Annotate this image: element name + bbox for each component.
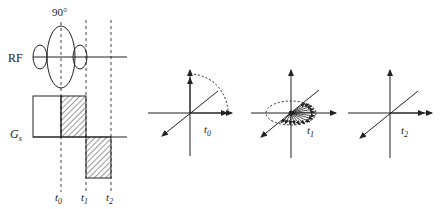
t1-label: t1 [81,191,88,206]
x-axis [360,91,418,138]
t2-label: t2 [106,191,113,206]
vector-t2-label: t2 [401,124,408,139]
origin-dot [289,111,293,115]
vector-diagram-t1 [251,70,336,158]
slice-select-lobe-hatched [61,96,86,137]
rotation-arc [190,74,228,113]
refocusing-lobe-hatched [86,137,111,178]
dephased-spin-vectors [281,103,315,125]
vector-t0-label: t0 [204,123,211,138]
rf-row [33,26,127,88]
slice-select-lobe-unhatched [33,96,61,137]
vector-t1-label: t1 [307,124,314,139]
vector-diagram-t2 [348,70,432,158]
gradient-label: Gs [10,127,22,143]
pulse-sequence-diagram: RF 90° Gs t0 t1 t2 [8,6,127,206]
gradient-row [33,96,127,178]
flip-angle-label: 90° [52,6,67,18]
rf-label: RF [8,51,23,65]
vector-diagram-t0 [148,70,232,156]
t0-label: t0 [55,191,62,206]
mri-slice-selection-figure: RF 90° Gs t0 t1 t2 t0 [0,0,443,209]
